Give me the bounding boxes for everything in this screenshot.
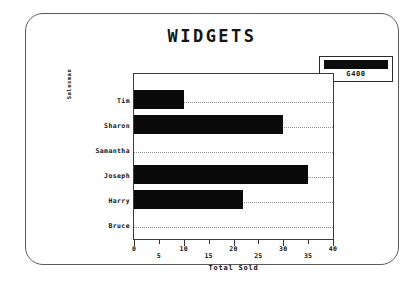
x-tick-label-20: 20 [229,245,237,253]
plot-area [133,73,334,240]
gridline-samantha [134,152,333,153]
x-tick-label-35: 35 [304,252,312,260]
y-axis-label-harry: Harry [108,197,130,205]
bar-tim [134,90,184,109]
y-axis-label-samantha: Samantha [95,147,130,155]
y-axis-category-labels: Tim Sharon Samantha Joseph Harry Bruce [69,73,130,240]
bar-harry [134,190,243,209]
legend-swatch-g400 [324,60,388,69]
x-tick-label-5: 5 [157,252,161,260]
x-tick-label-15: 15 [204,252,212,260]
x-tick-label-30: 30 [279,245,287,253]
y-axis-label-joseph: Joseph [104,172,130,180]
x-tick-25 [258,240,259,244]
chart-title: WIDGETS [26,26,398,46]
gridline-bruce [134,227,333,228]
x-axis: 0510152025303540 [133,240,334,264]
x-tick-35 [308,240,309,244]
page-frame: WIDGETS G400 Salesman Tim Sharon Samanth… [25,13,399,265]
x-tick-15 [209,240,210,244]
x-tick-label-25: 25 [254,252,262,260]
x-tick-label-10: 10 [180,245,188,253]
y-axis-label-sharon: Sharon [104,122,130,130]
bar-sharon [134,115,283,134]
bar-joseph [134,165,308,184]
x-tick-label-0: 0 [132,245,136,253]
x-tick-5 [159,240,160,244]
x-tick-label-40: 40 [329,245,337,253]
y-axis-label-tim: Tim [117,97,130,105]
y-axis-label-bruce: Bruce [108,222,130,230]
x-axis-title: Total Sold [133,264,334,272]
plot-wrap [133,73,334,240]
